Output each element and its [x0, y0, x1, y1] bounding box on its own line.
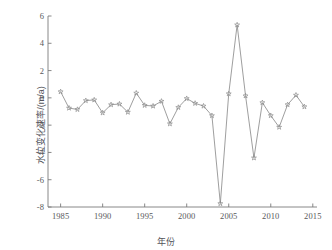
y-tick-label: 2 — [24, 66, 44, 76]
y-tick-label: -8 — [24, 202, 44, 212]
x-tick-label: 2015 — [304, 211, 321, 221]
x-tick-label: 2010 — [262, 211, 279, 221]
x-axis-title: 年份 — [157, 235, 175, 248]
data-series-line — [58, 22, 307, 205]
chart-canvas — [0, 0, 332, 250]
water-level-rate-chart: 6420-2-4-6-8 198519901995200020052010201… — [0, 0, 332, 250]
y-tick-label: 6 — [24, 11, 44, 21]
y-tick-label: -6 — [24, 175, 44, 185]
x-tick-label: 1985 — [52, 211, 69, 221]
y-axis-title: 水位变化速率/(m/a) — [34, 86, 47, 164]
x-tick-label: 1995 — [136, 211, 153, 221]
x-tick-label: 2005 — [220, 211, 237, 221]
axes — [48, 16, 317, 207]
x-tick-label: 2000 — [178, 211, 195, 221]
y-tick-label: 4 — [24, 38, 44, 48]
x-tick-label: 1990 — [94, 211, 111, 221]
series-line — [61, 25, 305, 204]
